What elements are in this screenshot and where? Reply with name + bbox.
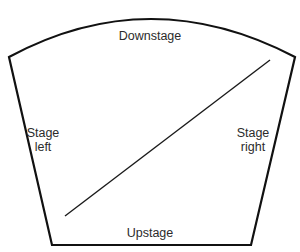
stage-right-line1: Stage <box>228 126 278 140</box>
stage-left-line2: left <box>18 140 68 154</box>
stage-right-label: Stage right <box>228 126 278 154</box>
stage-right-line2: right <box>228 140 278 154</box>
downstage-label: Downstage <box>100 29 200 43</box>
downstage-text: Downstage <box>119 29 182 43</box>
stage-left-label: Stage left <box>18 126 68 154</box>
upstage-label: Upstage <box>100 226 200 240</box>
stage-left-line1: Stage <box>18 126 68 140</box>
upstage-text: Upstage <box>127 226 174 240</box>
